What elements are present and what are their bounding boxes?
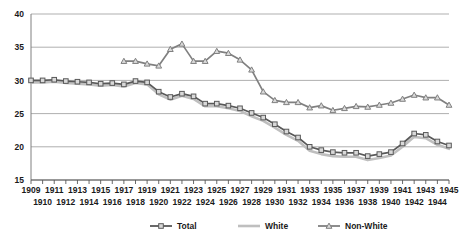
line-chart: 4035302520151909191019111912191319141915… (0, 0, 470, 242)
x-axis-label-1944: 1944 (428, 197, 447, 207)
marker-square (400, 141, 405, 146)
x-axis-label-1939: 1939 (370, 185, 389, 195)
x-axis-label-1913: 1913 (68, 185, 87, 195)
marker-square (133, 79, 138, 84)
y-axis-label-40: 40 (15, 9, 25, 19)
marker-square (110, 81, 115, 86)
marker-square (354, 150, 359, 155)
y-axis-label-20: 20 (15, 142, 25, 152)
x-axis-label-1938: 1938 (358, 197, 377, 207)
marker-square (331, 150, 336, 155)
marker-square (226, 103, 231, 108)
marker-square (98, 81, 103, 86)
x-axis-label-1920: 1920 (149, 197, 168, 207)
x-axis-label-1910: 1910 (33, 197, 52, 207)
x-axis-label-1915: 1915 (91, 185, 110, 195)
x-axis-label-1911: 1911 (45, 185, 64, 195)
marker-square (319, 148, 324, 153)
marker-square (191, 94, 196, 99)
marker-square (87, 80, 92, 85)
x-axis-label-1927: 1927 (231, 185, 250, 195)
legend-label-non-white: Non-White (345, 221, 388, 231)
marker-square (64, 79, 69, 84)
x-axis-label-1926: 1926 (219, 197, 238, 207)
x-axis-label-1942: 1942 (405, 197, 424, 207)
marker-square (75, 79, 80, 84)
x-axis-label-1917: 1917 (114, 185, 133, 195)
x-axis-label-1918: 1918 (126, 197, 145, 207)
marker-square (377, 152, 382, 157)
marker-square (389, 150, 394, 155)
x-axis-label-1929: 1929 (254, 185, 273, 195)
legend-swatch-total (150, 224, 172, 229)
x-axis-label-1937: 1937 (347, 185, 366, 195)
x-axis-label-1924: 1924 (196, 197, 215, 207)
x-axis-label-1940: 1940 (381, 197, 400, 207)
marker-square (249, 111, 254, 116)
x-axis-label-1925: 1925 (207, 185, 226, 195)
marker-square (40, 78, 45, 83)
x-axis-label-1934: 1934 (312, 197, 331, 207)
x-axis-label-1919: 1919 (138, 185, 157, 195)
x-axis-label-1931: 1931 (277, 185, 296, 195)
legend-label-white: White (265, 221, 288, 231)
marker-square (145, 80, 150, 85)
x-axis-label-1928: 1928 (242, 197, 261, 207)
x-axis-label-1941: 1941 (393, 185, 412, 195)
legend-label-total: Total (177, 221, 197, 231)
marker-square (122, 82, 127, 87)
marker-square (273, 122, 278, 127)
chart-legend: TotalWhiteNon-White (150, 221, 388, 231)
x-axis-label-1909: 1909 (22, 185, 41, 195)
y-axis-label-30: 30 (15, 76, 25, 86)
x-axis-label-1930: 1930 (265, 197, 284, 207)
marker-square (168, 95, 173, 100)
x-axis-label-1916: 1916 (103, 197, 122, 207)
x-axis-label-1943: 1943 (416, 185, 435, 195)
x-axis-label-1935: 1935 (323, 185, 342, 195)
marker-square (307, 145, 312, 150)
legend-swatch-non-white (318, 223, 340, 228)
chart-container: 4035302520151909191019111912191319141915… (0, 0, 470, 242)
y-axis-label-15: 15 (15, 175, 25, 185)
marker-square (435, 139, 440, 144)
marker-square (342, 150, 347, 155)
x-axis-label-1945: 1945 (440, 185, 459, 195)
x-axis-label-1921: 1921 (161, 185, 180, 195)
marker-square (214, 101, 219, 106)
x-axis-label-1914: 1914 (80, 197, 99, 207)
marker-square (296, 135, 301, 140)
x-axis-label-1923: 1923 (184, 185, 203, 195)
x-axis-label-1936: 1936 (335, 197, 354, 207)
marker-square (52, 77, 57, 82)
marker-square (284, 129, 289, 134)
marker-square (180, 91, 185, 96)
marker-square (156, 89, 161, 94)
plot-area (31, 14, 449, 180)
marker-square (447, 143, 452, 148)
marker-square (365, 154, 370, 159)
y-axis-label-25: 25 (15, 109, 25, 119)
marker-square (261, 115, 266, 120)
marker-square (29, 78, 34, 83)
y-axis-label-35: 35 (15, 42, 25, 52)
marker-square (159, 224, 164, 229)
x-axis-label-1912: 1912 (56, 197, 75, 207)
x-axis-label-1922: 1922 (172, 197, 191, 207)
marker-square (203, 101, 208, 106)
x-axis-label-1932: 1932 (289, 197, 308, 207)
marker-square (238, 106, 243, 111)
marker-square (412, 131, 417, 136)
marker-square (423, 133, 428, 138)
x-axis-label-1933: 1933 (300, 185, 319, 195)
